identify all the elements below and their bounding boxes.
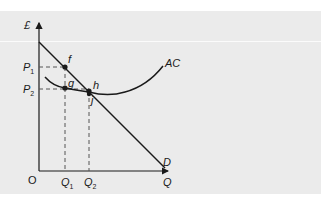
average-cost-curve [45,66,163,95]
cost-demand-diagram: £ O Q P1 P2 Q1 Q2 D AC f g h j [0,0,333,206]
p2-label: P2 [23,83,34,97]
origin-label: O [28,174,37,186]
q2-label: Q2 [84,176,97,190]
ac-label: AC [164,57,180,69]
p1-label: P1 [23,61,34,75]
demand-curve [39,42,165,168]
q1-label: Q1 [61,176,74,190]
y-axis-label: £ [23,19,31,31]
x-axis-label: Q [163,176,172,188]
point-h-label: h [93,79,99,91]
demand-label: D [163,156,171,168]
point-g-label: g [68,77,75,89]
point-f [62,64,67,69]
point-g [62,85,67,90]
point-f-label: f [68,53,72,65]
